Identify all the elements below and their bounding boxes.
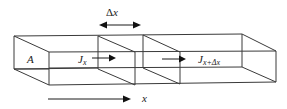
flux-in-arrow: Jx <box>78 53 116 67</box>
prism-right-top-diagonal <box>242 34 276 51</box>
slice2-bottom-diagonal <box>143 68 180 84</box>
delta-x-arrow-left-head-icon <box>99 22 107 29</box>
slice1-top-diagonal <box>98 36 135 52</box>
prism-back-top-edge <box>14 34 242 36</box>
prism-left-top-diagonal <box>14 36 49 52</box>
area-label: A <box>26 53 34 65</box>
slice2-top-diagonal <box>143 35 180 52</box>
flux-in-arrow-head-icon <box>109 55 116 62</box>
slice1-bottom-diagonal <box>98 69 135 85</box>
prism <box>14 34 276 85</box>
flux-in-label: Jx <box>78 53 87 67</box>
flux-out-label: Jx+Δx <box>198 53 221 67</box>
diagram-canvas: Δx A Jx Jx+Δx x <box>0 0 287 109</box>
flux-out-arrow-head-icon <box>179 56 186 63</box>
slice-plane-x <box>98 36 135 85</box>
x-axis-arrow: x <box>48 92 147 104</box>
x-axis-arrow-head-icon <box>123 96 131 103</box>
prism-left-bottom-diagonal <box>14 69 49 85</box>
flux-out-arrow: Jx+Δx <box>162 53 221 67</box>
x-axis-label: x <box>141 92 147 104</box>
delta-x-arrow: Δx <box>99 6 141 29</box>
delta-x-label: Δx <box>106 6 118 18</box>
delta-x-arrow-right-head-icon <box>133 22 141 29</box>
prism-front-bottom-edge <box>49 82 276 85</box>
prism-back-bottom-left <box>14 68 98 69</box>
prism-right-bottom-diagonal <box>242 67 276 82</box>
flux-slab-diagram: Δx A Jx Jx+Δx x <box>0 0 287 109</box>
